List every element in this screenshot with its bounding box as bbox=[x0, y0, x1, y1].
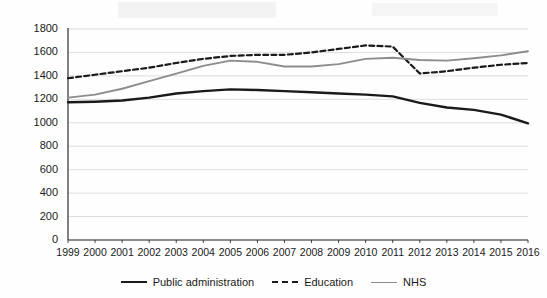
x-axis-tick-label: 2006 bbox=[246, 246, 269, 258]
x-axis-tick-label: 2003 bbox=[165, 246, 188, 258]
legend-item-label: Public administration bbox=[153, 276, 255, 288]
x-axis-tick-label: 2013 bbox=[435, 246, 458, 258]
x-axis-tick-label: 1999 bbox=[56, 246, 79, 258]
x-axis-tick-label: 2001 bbox=[110, 246, 133, 258]
legend-item-label: Education bbox=[304, 276, 353, 288]
x-axis-tick-label: 2012 bbox=[408, 246, 431, 258]
y-axis-tick-label: 1600 bbox=[8, 46, 58, 57]
x-axis-tick-label: 2007 bbox=[273, 246, 296, 258]
y-axis-tick-label: 600 bbox=[8, 164, 58, 175]
x-axis-tick-label: 2005 bbox=[219, 246, 242, 258]
legend-item-label: NHS bbox=[403, 276, 426, 288]
legend-swatch-icon bbox=[121, 281, 147, 283]
x-axis-labels: 1999200020012002200320042005200620072008… bbox=[0, 246, 547, 262]
series-line-public-administration bbox=[68, 89, 528, 123]
legend-item: Public administration bbox=[121, 276, 255, 288]
y-axis-tick-label: 800 bbox=[8, 140, 58, 151]
legend-item: NHS bbox=[371, 276, 426, 288]
x-axis-tick-label: 2008 bbox=[300, 246, 323, 258]
x-axis-tick-label: 2016 bbox=[516, 246, 539, 258]
legend-swatch-icon bbox=[272, 281, 298, 283]
y-axis-tick-label: 400 bbox=[8, 187, 58, 198]
y-axis-tick-label: 1400 bbox=[8, 70, 58, 81]
x-axis-tick-label: 2011 bbox=[381, 246, 404, 258]
x-axis-tick-label: 2009 bbox=[327, 246, 350, 258]
y-axis-tick-label: 0 bbox=[8, 234, 58, 245]
x-axis-tick-label: 2010 bbox=[354, 246, 377, 258]
x-axis-tick-label: 2000 bbox=[83, 246, 106, 258]
x-axis-tick-label: 2002 bbox=[137, 246, 160, 258]
legend-item: Education bbox=[272, 276, 353, 288]
chart-legend: Public administrationEducationNHS bbox=[0, 272, 547, 292]
legend-swatch-icon bbox=[371, 282, 397, 283]
y-axis-tick-label: 1000 bbox=[8, 117, 58, 128]
y-axis-tick-label: 1200 bbox=[8, 93, 58, 104]
series-line-education bbox=[68, 45, 528, 78]
line-chart-figure: 020040060080010001200140016001800 199920… bbox=[0, 0, 547, 298]
y-axis-tick-label: 200 bbox=[8, 211, 58, 222]
x-axis-tick-label: 2014 bbox=[462, 246, 485, 258]
x-axis-tick-label: 2015 bbox=[489, 246, 512, 258]
x-axis-tick-label: 2004 bbox=[192, 246, 215, 258]
y-axis-tick-label: 1800 bbox=[8, 23, 58, 34]
